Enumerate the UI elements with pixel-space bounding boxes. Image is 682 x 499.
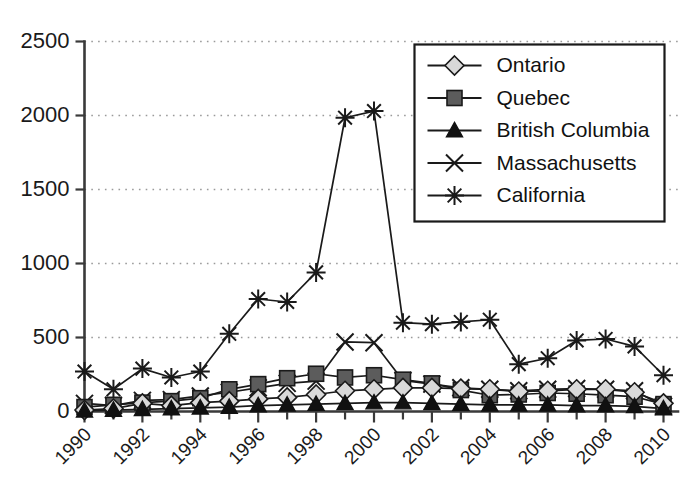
y-tick-label: 500 <box>33 324 70 349</box>
x-tick-label-group: 2004 <box>456 423 501 468</box>
data-point-marker <box>336 108 355 127</box>
x-tick-label-group: 2002 <box>398 423 443 468</box>
x-tick-label-group: 1998 <box>282 423 327 468</box>
data-point-marker <box>75 362 94 381</box>
data-point-marker <box>654 366 673 385</box>
y-tick-label: 2000 <box>21 102 70 127</box>
x-tick-label-group: 2006 <box>514 423 559 468</box>
data-point-marker <box>162 368 181 387</box>
y-tick-label: 1500 <box>21 176 70 201</box>
x-tick-label: 1994 <box>166 423 211 468</box>
data-point-marker <box>280 371 295 386</box>
x-tick-label: 2002 <box>398 423 443 468</box>
data-point-marker <box>191 362 210 381</box>
x-axis-tick-labels: 1990199219941996199820002002200420062008… <box>51 423 675 468</box>
data-point-marker <box>133 359 152 378</box>
y-axis-tick-labels: 05001000150020002500 <box>21 28 70 423</box>
legend-label: California <box>497 183 586 206</box>
data-point-marker <box>393 313 412 332</box>
chart-canvas: 05001000150020002500 1990199219941996199… <box>0 0 682 499</box>
data-point-marker <box>309 366 324 381</box>
y-tick-label: 2500 <box>21 28 70 53</box>
data-point-marker <box>220 324 239 343</box>
x-tick-label-group: 1994 <box>166 423 211 468</box>
data-point-marker <box>307 263 326 282</box>
data-point-marker <box>538 349 557 368</box>
x-tick-label-group: 1996 <box>224 423 269 468</box>
x-tick-label-group: 2000 <box>340 423 385 468</box>
x-tick-label-group: 2008 <box>572 423 617 468</box>
line-chart: 05001000150020002500 1990199219941996199… <box>0 0 682 499</box>
x-tick-label-group: 1992 <box>108 423 153 468</box>
data-point-marker <box>451 312 470 331</box>
data-point-marker <box>445 186 464 205</box>
data-point-marker <box>447 91 462 106</box>
y-tick-label: 1000 <box>21 250 70 275</box>
x-tick-label-group: 2010 <box>630 423 675 468</box>
x-tick-label: 1998 <box>282 423 327 468</box>
data-point-marker <box>625 337 644 356</box>
x-tick-label-group: 1990 <box>51 423 96 468</box>
data-point-marker <box>365 102 384 121</box>
data-point-marker <box>422 315 441 334</box>
x-tick-label: 1992 <box>108 423 153 468</box>
x-tick-label: 2008 <box>572 423 617 468</box>
data-point-marker <box>104 380 123 399</box>
chart-legend: OntarioQuebecBritish ColumbiaMassachuset… <box>415 45 665 222</box>
data-point-marker <box>596 329 615 348</box>
legend-label: British Columbia <box>497 118 650 141</box>
x-tick-label: 2000 <box>340 423 385 468</box>
legend-label: Massachusetts <box>497 151 637 174</box>
data-point-marker <box>249 290 268 309</box>
x-tick-label: 1990 <box>51 423 96 468</box>
data-point-marker <box>395 395 411 409</box>
data-point-marker <box>509 355 528 374</box>
legend-label: Quebec <box>497 86 571 109</box>
y-tick-label: 0 <box>57 398 69 423</box>
x-tick-label: 2010 <box>630 423 675 468</box>
data-point-marker <box>567 331 586 350</box>
x-tick-label: 2006 <box>514 423 559 468</box>
x-tick-label: 1996 <box>224 423 269 468</box>
data-point-marker <box>366 395 382 409</box>
x-tick-label: 2004 <box>456 423 501 468</box>
legend-label: Ontario <box>497 53 566 76</box>
data-point-marker <box>480 310 499 329</box>
data-point-marker <box>278 292 297 311</box>
